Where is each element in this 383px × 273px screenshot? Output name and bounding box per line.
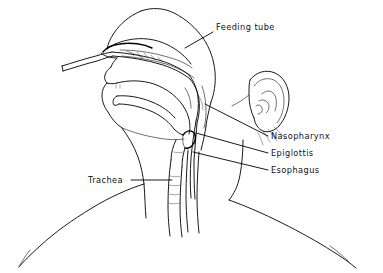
anatomy-illustration: Feeding tube Nasopharynx Epiglottis Esop…: [0, 0, 383, 273]
label-nasopharynx: Nasopharynx: [271, 131, 330, 141]
label-trachea: Trachea: [87, 175, 123, 185]
label-esophagus: Esophagus: [271, 165, 320, 175]
label-epiglottis: Epiglottis: [271, 148, 314, 158]
anatomy-figure: Feeding tube Nasopharynx Epiglottis Esop…: [0, 0, 383, 273]
label-feeding-tube: Feeding tube: [216, 22, 275, 32]
